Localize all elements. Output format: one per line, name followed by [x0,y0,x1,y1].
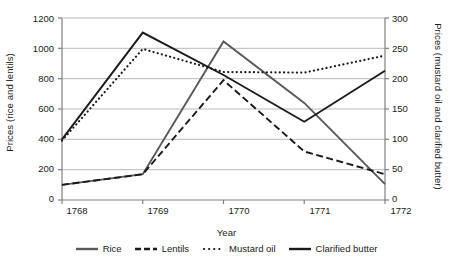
chart-container: Prices (rice and lentils) Prices (mustar… [0,0,453,264]
line-dotted-icon [202,244,224,254]
series-line-mustard-oil [62,49,385,141]
series-line-lentils [62,80,385,185]
legend-label-lentils: Lentils [162,243,189,254]
legend-item-clarified-butter[interactable]: Clarified butter [289,243,378,254]
legend-item-lentils[interactable]: Lentils [135,243,189,254]
line-solid-black-icon [289,244,311,254]
legend-label-mustard-oil: Mustard oil [229,243,275,254]
legend-item-rice[interactable]: Rice [76,243,122,254]
series-line-rice [62,42,385,185]
legend-label-rice: Rice [103,243,122,254]
line-solid-gray-icon [76,244,98,254]
legend-item-mustard-oil[interactable]: Mustard oil [202,243,275,254]
chart-legend: Rice Lentils Mustard oil Clarified butte… [0,243,453,254]
plot-area [0,0,453,264]
legend-label-clarified-butter: Clarified butter [316,243,378,254]
line-dashed-icon [135,244,157,254]
